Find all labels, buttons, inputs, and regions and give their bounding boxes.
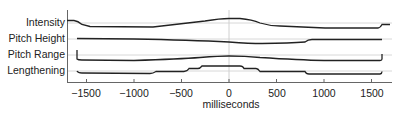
track-label-pitch-range: Pitch Range [8, 48, 65, 60]
x-tick-label: 1500 [360, 87, 383, 99]
x-tick-label: −1500 [71, 87, 101, 99]
x-tick-label: −500 [169, 87, 193, 99]
x-ticks [87, 79, 372, 82]
x-tick-label: 500 [268, 87, 286, 99]
track-label-lengthening: Lengthening [7, 64, 65, 76]
x-tick-label: 1000 [312, 87, 335, 99]
x-tick-label: −1000 [119, 87, 149, 99]
track-label-pitch-height: Pitch Height [8, 32, 65, 44]
track-label-intensity: Intensity [26, 16, 65, 28]
x-axis-label: milliseconds [202, 98, 259, 110]
